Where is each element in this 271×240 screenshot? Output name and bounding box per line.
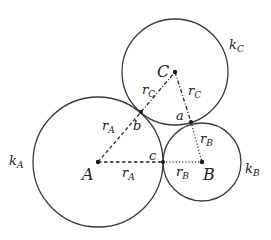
point-a <box>189 120 193 124</box>
point-C <box>173 70 177 74</box>
label-C: C <box>157 62 169 81</box>
label-A: A <box>80 165 94 184</box>
label-c: c <box>149 148 157 163</box>
label-a: a <box>176 108 184 123</box>
label-rC-left: rC <box>142 82 155 99</box>
point-b <box>139 110 143 114</box>
point-B <box>200 160 204 164</box>
label-rA-diagonal: rA <box>102 118 115 135</box>
label-kB: kB <box>245 161 260 178</box>
label-kC: kC <box>229 37 244 54</box>
label-rB-horizontal: rB <box>176 164 189 181</box>
label-b: b <box>133 118 141 133</box>
tangent-circles-diagram: A B C a b c kA kB kC rA rA rB rB rC rC <box>0 0 271 240</box>
point-c <box>161 160 165 164</box>
label-kA: kA <box>9 153 24 170</box>
label-B: B <box>202 165 215 184</box>
label-rA-horizontal: rA <box>122 165 135 182</box>
label-rB-diagonal: rB <box>200 131 213 148</box>
label-rC-right: rC <box>188 83 201 100</box>
point-A <box>96 160 100 164</box>
